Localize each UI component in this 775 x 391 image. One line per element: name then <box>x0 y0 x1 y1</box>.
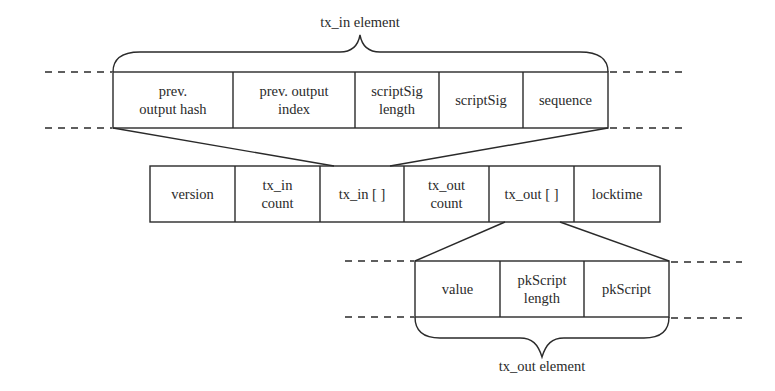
field-label: version <box>171 185 214 203</box>
field-label: scriptSig length <box>371 82 423 118</box>
tx-out-expand-right <box>560 222 669 261</box>
field-label: pkScript length <box>517 271 566 307</box>
field-tx-in-count: tx_in count <box>235 166 320 222</box>
field-scriptsig-length: scriptSig length <box>355 72 439 128</box>
field-pkscript-length: pkScript length <box>500 261 584 317</box>
field-label: tx_in [ ] <box>339 185 386 203</box>
field-label: tx_out [ ] <box>505 185 559 203</box>
field-prev-output-hash: prev. output hash <box>113 72 233 128</box>
field-label: tx_out count <box>428 176 465 212</box>
field-label: tx_in count <box>261 176 293 212</box>
tx-in-brace <box>113 35 608 72</box>
tx-out-expand-left <box>415 222 505 261</box>
tx-in-expand-right <box>390 128 608 166</box>
tx-out-brace <box>415 317 669 357</box>
field-label: locktime <box>592 185 643 203</box>
field-tx-out-count: tx_out count <box>404 166 489 222</box>
field-tx-in-array: tx_in [ ] <box>320 166 404 222</box>
field-label: sequence <box>539 91 592 109</box>
field-scriptsig: scriptSig <box>439 72 523 128</box>
field-sequence: sequence <box>523 72 608 128</box>
field-locktime: locktime <box>574 166 660 222</box>
field-label: pkScript <box>602 280 651 298</box>
tx-in-expand-left <box>113 128 334 166</box>
field-label: prev. output hash <box>139 82 206 118</box>
field-pkscript: pkScript <box>584 261 669 317</box>
field-prev-output-index: prev. output index <box>233 72 355 128</box>
field-label: scriptSig <box>455 91 507 109</box>
field-label: prev. output index <box>259 82 328 118</box>
field-tx-out-array: tx_out [ ] <box>489 166 574 222</box>
tx-in-element-label: tx_in element <box>320 14 399 31</box>
field-label: value <box>442 280 473 298</box>
tx-out-element-label: tx_out element <box>499 358 586 375</box>
field-value: value <box>415 261 500 317</box>
field-version: version <box>150 166 235 222</box>
